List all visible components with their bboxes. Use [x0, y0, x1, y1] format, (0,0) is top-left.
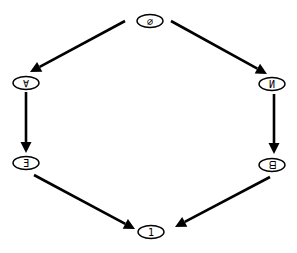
edge-lower-left-to-bottom: [34, 175, 125, 224]
node-label: ∀: [23, 78, 29, 89]
edge-top-to-upper-left: [40, 21, 125, 67]
node-label: ∅: [147, 16, 153, 27]
lattice-diagram: ∅∀ИƎᗺ1: [0, 0, 297, 253]
arrowhead-icon: [21, 142, 32, 153]
node-label: И: [269, 79, 275, 90]
node-label: Ǝ: [23, 158, 29, 169]
nodes-group: ∅∀ИƎᗺ1: [13, 15, 285, 239]
edge-top-to-upper-right: [171, 21, 257, 69]
node-top: ∅: [137, 15, 163, 28]
node-lower-left: Ǝ: [13, 157, 39, 170]
node-label: ᗺ: [269, 160, 276, 171]
node-label: 1: [148, 227, 154, 238]
node-upper-right: И: [259, 78, 285, 91]
node-lower-right: ᗺ: [259, 159, 285, 172]
edges-group: [21, 21, 280, 229]
node-bottom: 1: [138, 226, 164, 239]
edge-lower-right-to-bottom: [185, 177, 270, 222]
arrowhead-icon: [269, 143, 280, 154]
node-upper-left: ∀: [13, 77, 39, 90]
